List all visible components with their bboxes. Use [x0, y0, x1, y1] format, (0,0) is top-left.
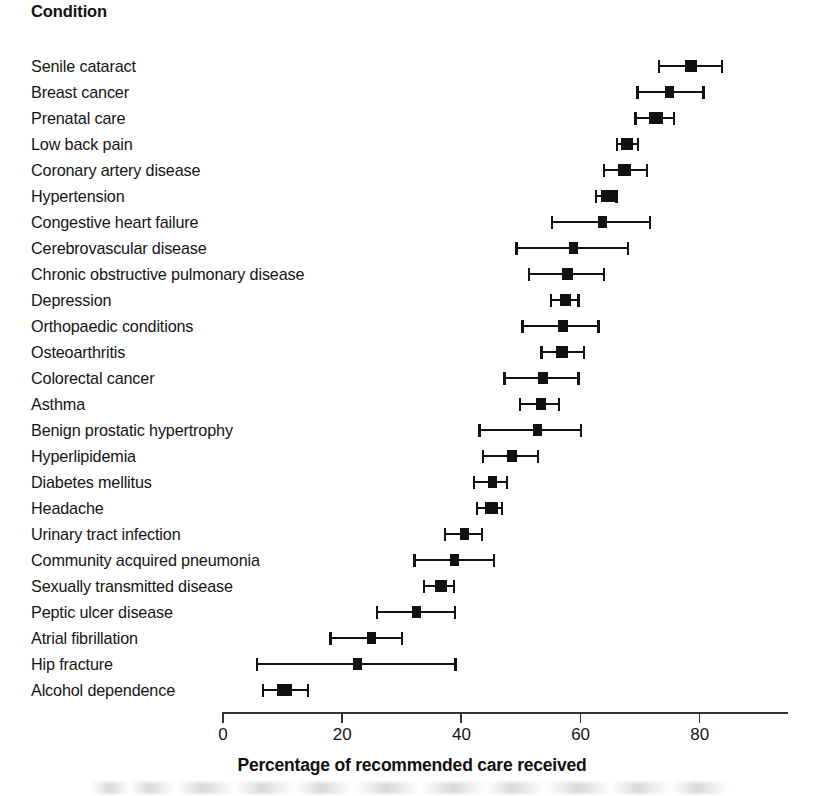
ci-cap-upper: [615, 190, 617, 203]
ci-cap-upper: [649, 216, 651, 229]
ci-cap-lower: [528, 268, 530, 281]
point-estimate-marker: [618, 164, 631, 177]
ci-cap-lower: [413, 554, 415, 567]
forest-row: Congestive heart failure: [0, 209, 824, 235]
ci-cap-lower: [444, 528, 446, 541]
ci-cap-lower: [478, 424, 480, 437]
ci-cap-lower: [551, 216, 553, 229]
ci-cap-upper: [307, 684, 309, 697]
forest-row: Benign prostatic hypertrophy: [0, 417, 824, 443]
forest-row: Depression: [0, 287, 824, 313]
ci-cap-upper: [493, 554, 495, 567]
point-estimate-marker: [598, 216, 607, 229]
forest-row: Urinary tract infection: [0, 521, 824, 547]
ci-cap-lower: [329, 632, 331, 645]
x-axis-tick-label: 60: [571, 725, 590, 745]
point-estimate-marker: [533, 424, 542, 437]
ci-cap-lower: [521, 320, 523, 333]
forest-row: Asthma: [0, 391, 824, 417]
forest-plot-chart: Condition Senile cataractBreast cancerPr…: [0, 0, 824, 796]
point-estimate-marker: [538, 372, 548, 385]
ci-cap-upper: [506, 476, 508, 489]
row-label-condition: Headache: [31, 495, 104, 521]
row-label-condition: Benign prostatic hypertrophy: [31, 417, 233, 443]
x-axis-tick-label: 0: [218, 725, 227, 745]
point-estimate-marker: [558, 320, 568, 333]
row-label-condition: Chronic obstructive pulmonary disease: [31, 261, 304, 287]
row-label-condition: Prenatal care: [31, 105, 125, 131]
forest-row: Colorectal cancer: [0, 365, 824, 391]
x-axis-title: Percentage of recommended care received: [0, 755, 824, 776]
row-label-condition: Depression: [31, 287, 111, 313]
ci-cap-upper: [454, 606, 456, 619]
ci-cap-lower: [482, 450, 484, 463]
ci-cap-lower: [503, 372, 505, 385]
x-axis-tick-label: 80: [690, 725, 709, 745]
point-estimate-marker: [353, 658, 362, 671]
point-estimate-marker: [685, 60, 697, 73]
forest-row: Coronary artery disease: [0, 157, 824, 183]
point-estimate-marker: [562, 268, 573, 281]
forest-row: Cerebrovascular disease: [0, 235, 824, 261]
ci-cap-lower: [603, 164, 605, 177]
ci-cap-upper: [580, 424, 582, 437]
ci-cap-lower: [515, 242, 517, 255]
x-axis-tick-label: 40: [452, 725, 471, 745]
row-label-condition: Senile cataract: [31, 53, 136, 79]
ci-cap-upper: [597, 320, 599, 333]
ci-cap-upper: [583, 346, 585, 359]
x-axis-tick: [460, 714, 462, 723]
ci-cap-upper: [558, 398, 560, 411]
point-estimate-marker: [460, 528, 469, 541]
row-label-condition: Alcohol dependence: [31, 677, 175, 703]
point-estimate-marker: [665, 86, 674, 99]
forest-row: Alcohol dependence: [0, 677, 824, 703]
forest-row: Community acquired pneumonia: [0, 547, 824, 573]
ci-cap-lower: [636, 86, 638, 99]
point-estimate-marker: [507, 450, 517, 463]
row-label-condition: Breast cancer: [31, 79, 129, 105]
row-label-condition: Urinary tract infection: [31, 521, 181, 547]
ci-cap-upper: [577, 294, 579, 307]
point-estimate-marker: [450, 554, 459, 567]
row-label-condition: Hip fracture: [31, 651, 113, 677]
ci-cap-lower: [550, 294, 552, 307]
row-label-condition: Sexually transmitted disease: [31, 573, 233, 599]
forest-row: Osteoarthritis: [0, 339, 824, 365]
point-estimate-marker: [621, 138, 633, 151]
ci-cap-lower: [595, 190, 597, 203]
row-label-condition: Hyperlipidemia: [31, 443, 136, 469]
forest-row: Hypertension: [0, 183, 824, 209]
point-estimate-marker: [569, 242, 578, 255]
ci-cap-upper: [673, 112, 675, 125]
row-label-condition: Colorectal cancer: [31, 365, 154, 391]
page-caption-blur: [90, 782, 750, 794]
forest-row: Sexually transmitted disease: [0, 573, 824, 599]
ci-cap-upper: [577, 372, 579, 385]
row-label-condition: Congestive heart failure: [31, 209, 198, 235]
ci-cap-upper: [453, 580, 455, 593]
ci-cap-lower: [376, 606, 378, 619]
forest-row: Peptic ulcer disease: [0, 599, 824, 625]
x-axis-tick: [341, 714, 343, 723]
ci-cap-lower: [658, 60, 660, 73]
forest-row: Diabetes mellitus: [0, 469, 824, 495]
x-axis-tick-label: 20: [333, 725, 352, 745]
ci-cap-upper: [702, 86, 704, 99]
row-label-condition: Coronary artery disease: [31, 157, 200, 183]
ci-cap-upper: [454, 658, 456, 671]
point-estimate-marker: [488, 476, 497, 489]
point-estimate-marker: [367, 632, 376, 645]
row-label-condition: Community acquired pneumonia: [31, 547, 260, 573]
point-estimate-marker: [601, 190, 615, 203]
row-label-condition: Orthopaedic conditions: [31, 313, 193, 339]
row-label-condition: Cerebrovascular disease: [31, 235, 207, 261]
point-estimate-marker: [560, 294, 571, 307]
row-label-condition: Atrial fibrillation: [31, 625, 138, 651]
forest-row: Atrial fibrillation: [0, 625, 824, 651]
point-estimate-marker: [536, 398, 546, 411]
ci-cap-lower: [256, 658, 258, 671]
row-label-condition: Asthma: [31, 391, 85, 417]
forest-row: Breast cancer: [0, 79, 824, 105]
ci-cap-upper: [481, 528, 483, 541]
